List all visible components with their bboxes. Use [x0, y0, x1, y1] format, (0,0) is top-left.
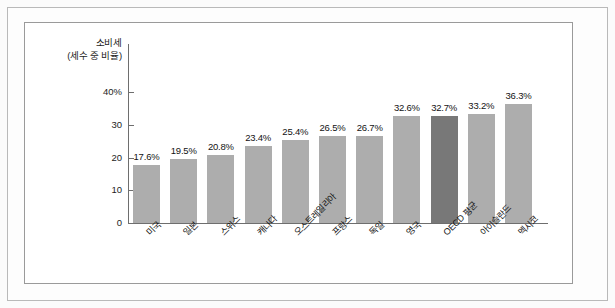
bar-value-label: 19.5%: [164, 145, 203, 156]
bar: [207, 155, 234, 223]
bar: [393, 116, 420, 223]
y-tick-mark: [128, 125, 134, 126]
bar-value-label: 23.4%: [239, 132, 278, 143]
y-tick-label: 40%: [82, 86, 122, 97]
bar: [431, 116, 458, 223]
bar: [282, 140, 309, 223]
bar-value-label: 32.6%: [387, 102, 426, 113]
bar: [133, 165, 160, 223]
plot-area: 소비세 (세수 중 비율) 40%3020100 17.6%19.5%20.8%…: [0, 0, 615, 308]
bar-value-label: 33.2%: [462, 100, 501, 111]
y-tick-label: 20: [82, 152, 122, 163]
bar: [245, 146, 272, 223]
y-axis-title: 소비세 (세수 중 비율): [26, 36, 122, 62]
bar-value-label: 20.8%: [201, 141, 240, 152]
bar-value-label: 36.3%: [499, 90, 538, 101]
y-axis-title-line-1: 소비세: [26, 36, 122, 49]
bar-value-label: 32.7%: [425, 102, 464, 113]
y-tick-mark: [128, 92, 134, 93]
bar: [356, 136, 383, 223]
bar-value-label: 26.7%: [350, 122, 389, 133]
y-tick-label: 10: [82, 184, 122, 195]
y-axis-line: [128, 44, 129, 224]
y-tick-label: 0: [82, 217, 122, 228]
chart-page: 소비세 (세수 중 비율) 40%3020100 17.6%19.5%20.8%…: [0, 0, 615, 308]
bar-value-label: 25.4%: [276, 126, 315, 137]
y-tick-mark: [128, 223, 134, 224]
bar-value-label: 26.5%: [313, 122, 352, 133]
bar: [170, 159, 197, 223]
y-axis-title-line-2: (세수 중 비율): [26, 49, 122, 62]
bar-value-label: 17.6%: [127, 151, 166, 162]
y-tick-label: 30: [82, 119, 122, 130]
